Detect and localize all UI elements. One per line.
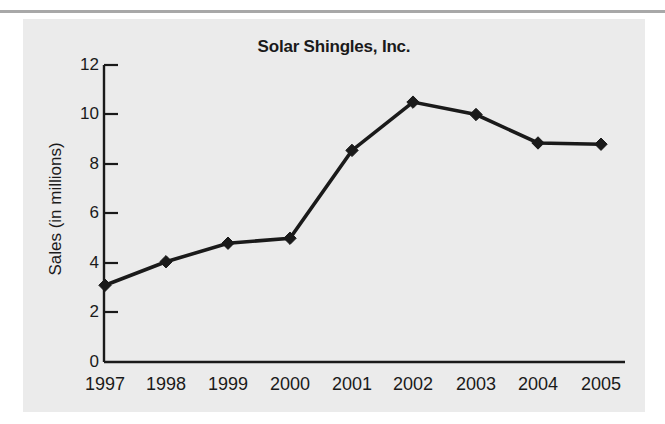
data-point-1999 [222,237,234,249]
data-point-2003 [470,108,482,120]
line-chart: Solar Shingles, Inc. Sales (in millions)… [23,19,645,412]
series-markers-sales [99,96,607,292]
chart-figure-panel: Solar Shingles, Inc. Sales (in millions)… [23,19,645,412]
data-point-2004 [532,137,544,149]
figure-page: Solar Shingles, Inc. Sales (in millions)… [0,0,665,424]
plot-surface [23,19,645,412]
data-point-1997 [99,279,111,291]
data-point-1998 [160,256,172,268]
data-point-2005 [595,138,607,150]
series-line-sales [105,102,601,285]
y-axis-ticks [104,65,118,312]
page-top-rule [0,10,665,13]
